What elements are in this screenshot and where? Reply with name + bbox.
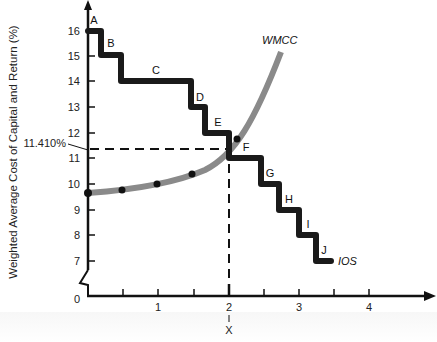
segment-label-g: G — [266, 167, 275, 179]
y-tick-label: 14 — [68, 75, 80, 87]
y-tick-label: 12 — [68, 127, 80, 139]
rate-label: 11.410% — [23, 137, 66, 149]
y-axis: 16 15 14 13 12 11 10 9 8 7 0 — [68, 0, 95, 305]
segment-label-b: B — [107, 37, 114, 49]
wmcc-point — [189, 171, 196, 178]
x-tick-label: 3 — [296, 301, 302, 313]
segment-label-j: J — [321, 244, 327, 256]
segment-label-e: E — [214, 116, 221, 128]
y-tick-label: 11 — [69, 152, 80, 164]
segment-label-h: H — [285, 193, 293, 205]
ios-series: A B C D E F G H I J IOS — [88, 14, 358, 267]
segment-label-a: A — [90, 14, 98, 26]
segment-label-i: I — [306, 218, 309, 230]
segment-label-f: F — [243, 141, 250, 153]
segment-label-c: C — [152, 64, 160, 76]
wmcc-point — [234, 136, 241, 143]
y-axis-arrow-icon — [84, 0, 92, 10]
y-tick-label: 10 — [68, 178, 80, 190]
wmcc-label: WMCC — [262, 34, 297, 46]
x-axis-arrow-icon — [424, 291, 436, 301]
axis-break-icon — [80, 270, 88, 296]
wmcc-point — [154, 181, 161, 188]
ios-label: IOS — [338, 255, 358, 267]
ios-step-line — [88, 31, 331, 261]
y-tick-label: 9 — [74, 204, 80, 216]
segment-label-d: D — [196, 91, 204, 103]
chart: Weighted Average Cost of Capital and Ret… — [0, 0, 437, 342]
wmcc-point — [84, 189, 92, 197]
x-axis: 1 2 3 4 X — [87, 284, 436, 336]
y-tick-label: 7 — [74, 255, 80, 267]
x-tick-label: 2 — [226, 301, 232, 313]
x-tick-label: 4 — [366, 301, 372, 313]
y-tick-label: 15 — [68, 50, 80, 62]
x-marker-label: X — [225, 324, 233, 336]
wmcc-curve — [88, 52, 281, 193]
y-tick-label: 8 — [74, 229, 80, 241]
y-tick-label: 16 — [68, 25, 80, 37]
y-tick-label: 13 — [68, 101, 80, 113]
rate-leader-line — [68, 144, 88, 150]
x-tick-label: 1 — [155, 301, 161, 313]
wmcc-point — [119, 187, 126, 194]
y-axis-label: Weighted Average Cost of Capital and Ret… — [7, 25, 19, 279]
origin-label: 0 — [74, 293, 80, 305]
